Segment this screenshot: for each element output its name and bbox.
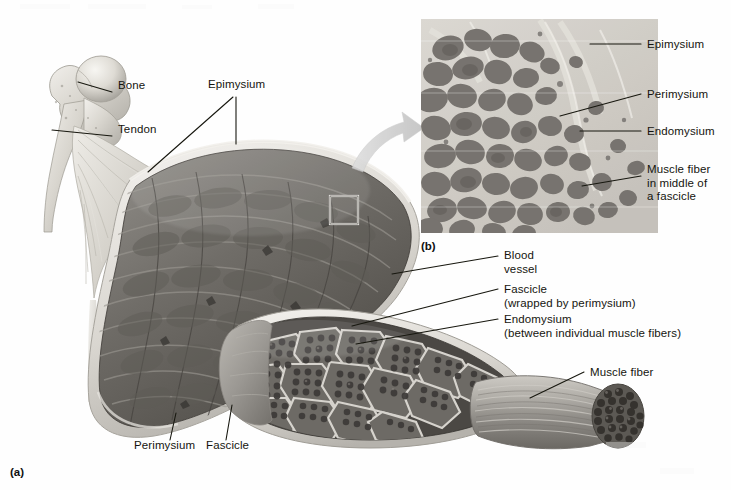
label-epimysium-b: Epimysium — [647, 38, 704, 52]
label-muscle-fiber-fascicle: Muscle fiber in middle of a fascicle — [647, 163, 710, 204]
label-tendon: Tendon — [118, 123, 156, 137]
label-muscle-fiber: Muscle fiber — [590, 366, 653, 380]
label-fascicle-a: Fascicle — [206, 439, 249, 453]
panel-label-a: (a) — [10, 466, 24, 478]
anatomical-illustration — [0, 0, 731, 490]
label-blood-vessel: Blood vessel — [504, 249, 537, 276]
panel-label-b: (b) — [421, 240, 436, 252]
label-epimysium-a: Epimysium — [208, 78, 265, 92]
cross-section-micrograph — [414, 19, 658, 245]
label-perimysium-a: Perimysium — [134, 439, 195, 453]
label-perimysium-b: Perimysium — [647, 88, 708, 102]
label-bone: Bone — [118, 79, 145, 93]
label-endomysium-b: Endomysium — [647, 125, 715, 139]
label-endomysium-between: Endomysium (between individual muscle fi… — [504, 313, 681, 340]
isolated-fascicle-bundle — [470, 376, 644, 449]
skeletal-muscle-figure: Bone Tendon Epimysium Perimysium Fascicl… — [0, 0, 731, 490]
label-fascicle-wrapped: Fascicle (wrapped by perimysium) — [504, 283, 636, 310]
